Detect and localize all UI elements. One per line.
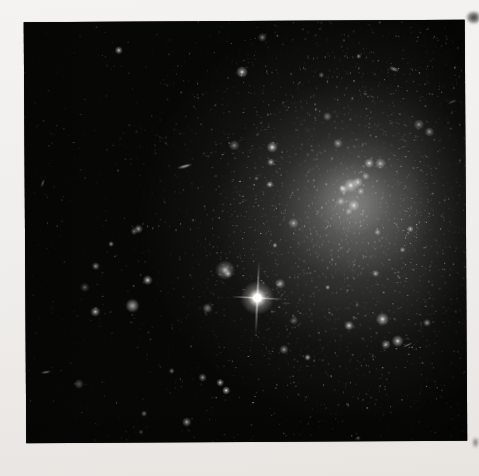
paper-background <box>0 0 479 476</box>
galaxy-photo-frame <box>24 20 468 444</box>
scan-artifact-top-right-icon <box>466 11 479 24</box>
galaxy-starfield-canvas <box>24 20 468 444</box>
page: { "meta": { "description": "Telescope ph… <box>0 0 479 476</box>
scan-artifact-bottom-right-icon <box>472 437 479 448</box>
